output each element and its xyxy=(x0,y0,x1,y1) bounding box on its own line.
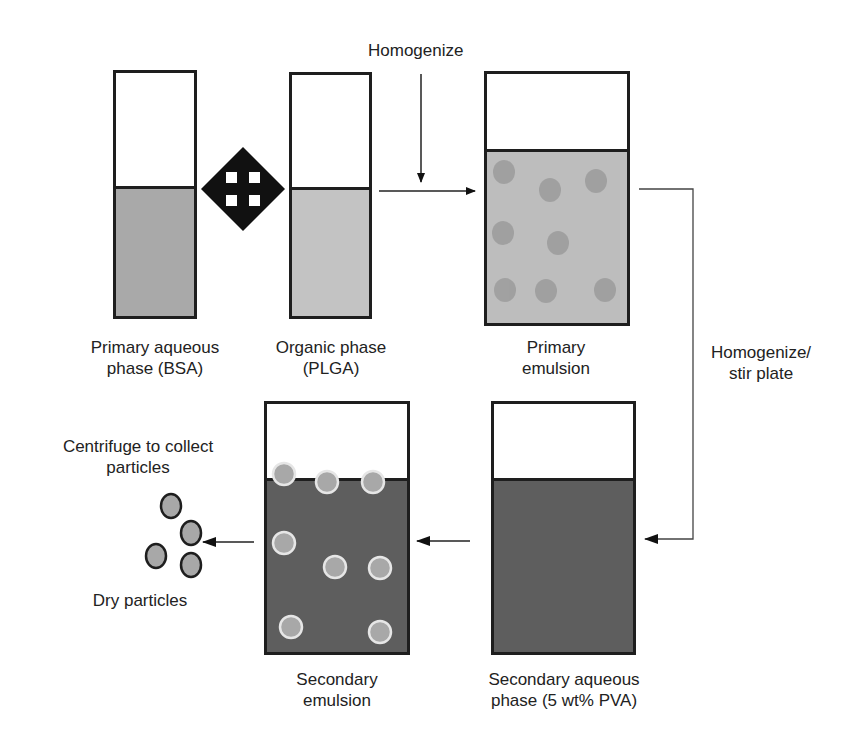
dry-particles-label: Dry particles xyxy=(80,590,200,611)
organic-phase-container xyxy=(289,72,372,319)
organic-phase-label-line2: (PLGA) xyxy=(251,358,411,379)
secondary-aqueous-container xyxy=(491,401,636,655)
secondary-emulsion-label: Secondary emulsion xyxy=(267,669,407,711)
dry-particles xyxy=(146,494,201,577)
primary-aqueous-liquid xyxy=(116,186,194,316)
homogenize-stir-line1: Homogenize/ xyxy=(701,342,821,363)
secondary-emulsion-liquid xyxy=(267,478,407,652)
primary-aqueous-label: Primary aqueous phase (BSA) xyxy=(70,337,240,379)
primary-emulsion-liquid xyxy=(487,149,627,323)
homogenize-stir-arrow xyxy=(639,189,693,539)
organic-phase-liquid xyxy=(292,187,369,316)
homogenize-stir-line2: stir plate xyxy=(701,363,821,384)
secondary-aqueous-label-line1: Secondary aqueous xyxy=(466,669,662,690)
primary-emulsion-label-line1: Primary xyxy=(486,337,626,358)
homogenize-stir-label: Homogenize/ stir plate xyxy=(701,342,821,384)
centrifuge-line1: Centrifuge to collect xyxy=(40,436,236,457)
primary-emulsion-label-line2: emulsion xyxy=(486,358,626,379)
homogenize-label: Homogenize xyxy=(368,40,488,61)
secondary-aqueous-liquid xyxy=(494,478,633,652)
primary-aqueous-container xyxy=(113,70,197,319)
secondary-emulsion-label-line1: Secondary xyxy=(267,669,407,690)
primary-emulsion-container xyxy=(484,71,630,326)
primary-aqueous-label-line2: phase (BSA) xyxy=(70,358,240,379)
secondary-emulsion-label-line2: emulsion xyxy=(267,690,407,711)
secondary-emulsion-container xyxy=(264,401,410,655)
primary-emulsion-label: Primary emulsion xyxy=(486,337,626,379)
centrifuge-line2: particles xyxy=(40,457,236,478)
organic-phase-label-line1: Organic phase xyxy=(251,337,411,358)
secondary-aqueous-label-line2: phase (5 wt% PVA) xyxy=(466,690,662,711)
organic-phase-label: Organic phase (PLGA) xyxy=(251,337,411,379)
primary-aqueous-label-line1: Primary aqueous xyxy=(70,337,240,358)
centrifuge-label: Centrifuge to collect particles xyxy=(40,436,236,478)
secondary-aqueous-label: Secondary aqueous phase (5 wt% PVA) xyxy=(466,669,662,711)
